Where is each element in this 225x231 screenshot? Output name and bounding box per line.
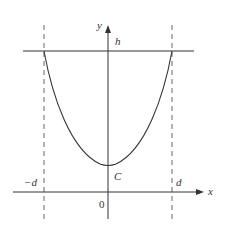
x-axis-arrow-icon — [196, 189, 204, 195]
neg-d-label: −d — [24, 177, 37, 188]
x-axis-label: x — [208, 186, 213, 197]
origin-label: 0 — [99, 199, 105, 210]
h-label: h — [115, 36, 121, 47]
y-axis-arrow-icon — [105, 25, 111, 33]
d-label: d — [176, 177, 182, 188]
diagram-svg — [0, 0, 225, 231]
diagram-canvas: y h C −d d x 0 — [0, 0, 225, 231]
c-label: C — [114, 171, 121, 182]
y-axis-label: y — [97, 20, 102, 31]
